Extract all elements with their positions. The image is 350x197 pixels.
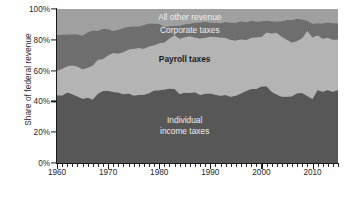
- x-tick-minor: [190, 164, 191, 167]
- x-tick-minor: [236, 164, 237, 167]
- x-tick-minor: [226, 164, 227, 167]
- x-tick-label: 2010: [303, 168, 321, 177]
- x-tick-minor: [297, 164, 298, 167]
- x-tick-minor: [338, 164, 339, 167]
- x-tick-minor: [292, 164, 293, 167]
- x-tick-minor: [328, 164, 329, 167]
- x-tick-minor: [307, 164, 308, 167]
- x-tick-minor: [246, 164, 247, 167]
- y-tick-label: 60%: [0, 66, 56, 75]
- x-tick-minor: [175, 164, 176, 167]
- x-tick-minor: [77, 164, 78, 167]
- x-tick-minor: [139, 164, 140, 167]
- x-tick-minor: [205, 164, 206, 167]
- x-tick-label: 2000: [252, 168, 270, 177]
- x-tick-minor: [267, 164, 268, 167]
- x-tick-minor: [129, 164, 130, 167]
- y-tick-label: 0%: [0, 159, 56, 168]
- x-tick-minor: [88, 164, 89, 167]
- x-tick-minor: [277, 164, 278, 167]
- x-tick-minor: [287, 164, 288, 167]
- x-tick-minor: [200, 164, 201, 167]
- x-tick-minor: [185, 164, 186, 167]
- x-tick-label: 1960: [48, 168, 66, 177]
- x-tick-minor: [282, 164, 283, 167]
- x-tick-minor: [123, 164, 124, 167]
- x-tick-minor: [180, 164, 181, 167]
- x-tick-minor: [149, 164, 150, 167]
- x-tick-minor: [98, 164, 99, 167]
- x-tick-minor: [333, 164, 334, 167]
- y-tick-label: 40%: [0, 97, 56, 106]
- x-tick-minor: [272, 164, 273, 167]
- x-tick-minor: [221, 164, 222, 167]
- stacked-area-chart: Share of federal revenue 0%20%40%60%80%1…: [0, 0, 350, 197]
- x-tick-minor: [241, 164, 242, 167]
- x-tick-minor: [72, 164, 73, 167]
- x-tick-minor: [215, 164, 216, 167]
- x-tick-minor: [67, 164, 68, 167]
- y-tick-label: 80%: [0, 35, 56, 44]
- x-tick-label: 1980: [150, 168, 168, 177]
- x-tick-minor: [154, 164, 155, 167]
- x-tick-minor: [83, 164, 84, 167]
- x-tick-label: 1990: [201, 168, 219, 177]
- plot-area: All other revenueCorporate taxesPayroll …: [57, 9, 338, 163]
- x-tick-minor: [195, 164, 196, 167]
- x-tick-label: 1970: [99, 168, 117, 177]
- x-tick-minor: [134, 164, 135, 167]
- x-tick-minor: [251, 164, 252, 167]
- area-individual-income-taxes: [57, 86, 338, 163]
- x-tick-minor: [256, 164, 257, 167]
- x-tick-minor: [62, 164, 63, 167]
- x-tick-minor: [231, 164, 232, 167]
- y-axis-line: [56, 8, 57, 164]
- x-tick-minor: [113, 164, 114, 167]
- x-tick-minor: [103, 164, 104, 167]
- x-tick-minor: [318, 164, 319, 167]
- y-tick-label: 100%: [0, 5, 56, 14]
- x-tick-minor: [144, 164, 145, 167]
- y-tick-label: 20%: [0, 128, 56, 137]
- x-tick-minor: [169, 164, 170, 167]
- x-tick-minor: [302, 164, 303, 167]
- x-tick-minor: [164, 164, 165, 167]
- x-tick-minor: [118, 164, 119, 167]
- x-tick-minor: [323, 164, 324, 167]
- x-tick-minor: [93, 164, 94, 167]
- area-series-svg: [57, 9, 338, 163]
